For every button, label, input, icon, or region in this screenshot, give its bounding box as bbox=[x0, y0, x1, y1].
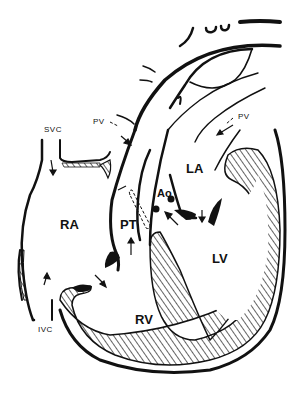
label-ao: Ao bbox=[157, 188, 172, 199]
label-lv: LV bbox=[212, 252, 228, 265]
label-ra: RA bbox=[60, 218, 79, 231]
label-rv: RV bbox=[135, 313, 153, 326]
label-ivc: IVC bbox=[38, 326, 53, 334]
label-pv-left: PV bbox=[93, 118, 105, 126]
label-pv-right: PV bbox=[238, 113, 250, 121]
heart-diagram bbox=[0, 0, 302, 411]
label-pt: PT bbox=[120, 218, 137, 231]
label-svc: SVC bbox=[44, 126, 62, 134]
label-la: LA bbox=[186, 162, 203, 175]
vessel-top-left bbox=[180, 28, 193, 46]
